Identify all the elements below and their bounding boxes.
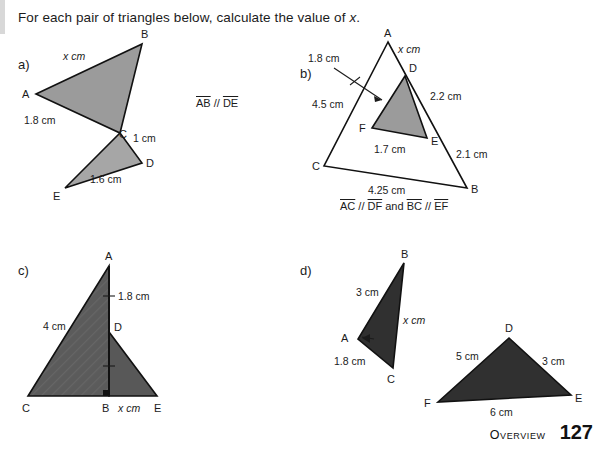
dim-ac-b: 4.5 cm [312, 98, 344, 110]
dim-de-b: 2.2 cm [430, 90, 462, 102]
dim-x-d: x cm [402, 314, 425, 326]
vertex-label-b-c: B [102, 402, 109, 414]
dim-ad-c: 1.8 cm [118, 290, 150, 302]
caption-b-mid2: // [422, 200, 434, 212]
vertex-label-b-d: B [401, 248, 408, 260]
caption-b: AC // DF and BC // EF [340, 200, 448, 212]
footer-page-number: 127 [560, 421, 593, 444]
dim-fd-d: 5 cm [456, 350, 479, 362]
dim-x-c: x cm [117, 402, 140, 414]
dim-de-a: 1.6 cm [90, 173, 122, 185]
dim-af-b: 1.8 cm [308, 52, 340, 64]
vertex-label-a-d: A [341, 332, 349, 344]
vertex-label-d-c: D [114, 321, 122, 333]
caption-a-seg2: DE [223, 97, 238, 109]
vertex-label-e-b: E [431, 135, 438, 147]
vertex-label-d-b: D [409, 62, 417, 74]
dim-eb-b: 2.1 cm [456, 148, 488, 160]
caption-a-mid: // [211, 97, 223, 109]
vertex-label-c-d: C [387, 373, 395, 385]
vertex-label-f-b: F [359, 122, 366, 134]
dim-ac-a: 1.8 cm [24, 114, 56, 126]
caption-b-seg2: DF [368, 200, 383, 212]
vertex-label-a-a: A [22, 88, 30, 100]
dim-ab-d: 3 cm [356, 286, 379, 298]
triangle-abc-d [358, 263, 404, 368]
caption-b-seg3: BC [407, 200, 422, 212]
dim-fe-d: 6 cm [490, 406, 513, 418]
dim-de-d: 3 cm [542, 355, 565, 367]
vertex-label-c-b: C [312, 160, 320, 172]
figure-c: A D C B E 1.8 cm 4 cm x cm [20, 248, 250, 423]
dim-cb-b: 4.25 cm [368, 184, 406, 196]
vertex-label-c-a: C [119, 128, 127, 140]
page-footer: Overview 127 [490, 421, 593, 444]
worksheet-page: For each pair of triangles below, calcul… [0, 0, 607, 452]
figure-b: A D F E C B x cm 1.8 cm 4.5 cm 2.2 cm 1.… [310, 28, 540, 200]
prompt-text-after: . [356, 10, 360, 25]
vertex-label-b-a: B [141, 28, 148, 40]
vertex-label-a-c: A [105, 250, 113, 262]
vertex-label-c-c: C [22, 402, 30, 414]
vertex-label-a-b: A [384, 27, 392, 39]
figure-d: B A C D F E 3 cm x cm 1.8 cm 5 cm 3 cm 6… [300, 250, 590, 420]
footer-section-name: Overview [490, 428, 546, 442]
caption-a-seg1: AB [196, 97, 211, 109]
prompt-text-before: For each pair of triangles below, calcul… [18, 10, 349, 25]
dim-x-a: x cm [62, 50, 85, 62]
dim-cd-a: 1 cm [133, 132, 156, 144]
caption-b-seg4: EF [434, 200, 448, 212]
dim-ca-c: 4 cm [43, 320, 66, 332]
triangle-fde-d [438, 338, 571, 402]
vertex-label-e-a: E [53, 190, 60, 202]
caption-a: AB // DE [196, 97, 238, 109]
caption-b-mid1: // [355, 200, 367, 212]
caption-b-seg1: AC [340, 200, 355, 212]
page-edge-bar [0, 0, 5, 34]
page-title: For each pair of triangles below, calcul… [18, 10, 360, 25]
vertex-label-b-b: B [471, 183, 478, 195]
triangle-dbe-c [109, 332, 157, 396]
vertex-label-e-c: E [154, 402, 161, 414]
right-angle-marker-c [103, 390, 109, 396]
dim-x-b: x cm [397, 43, 420, 55]
vertex-label-d-a: D [146, 157, 154, 169]
figure-a: B A C D E x cm 1.8 cm 1 cm 1.6 cm [20, 28, 220, 208]
vertex-label-d-d: D [505, 322, 513, 334]
vertex-label-e-d: E [575, 392, 582, 404]
dim-ac-d: 1.8 cm [334, 355, 366, 367]
vertex-label-f-d: F [424, 397, 431, 409]
triangle-cab-c [28, 266, 109, 396]
dim-fe-b: 1.7 cm [374, 143, 406, 155]
caption-b-and: and [382, 200, 406, 212]
